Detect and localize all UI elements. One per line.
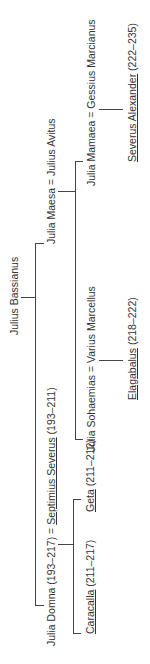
marriage-sign: = xyxy=(45,525,57,537)
connector-domna-children-bar xyxy=(73,500,74,634)
person-julia-sohaemias: Julia Sohaemias xyxy=(85,375,97,452)
connector-gen1-bar xyxy=(35,244,36,606)
couple-mamaea-marcianus: Julia Mamaea = Gessius Marcianus xyxy=(85,19,97,186)
marriage-sign: = xyxy=(45,176,57,188)
person-julius-bassianus: Julius Bassianus xyxy=(8,257,20,335)
connector-root-stem xyxy=(21,297,35,298)
connector-to-domna xyxy=(35,605,44,606)
couple-maesa-avitus: Julia Maesa = Julius Avitus xyxy=(45,118,57,244)
person-varius-marcellus: Varius Marcellus xyxy=(85,286,97,363)
reign-julia-domna: (193–217) xyxy=(45,537,57,588)
person-julia-mamaea: Julia Mamaea xyxy=(85,121,97,186)
connector-domna-stem xyxy=(58,544,73,545)
person-name: Caracalla xyxy=(84,590,96,634)
reign-septimius-severus: (193–211) xyxy=(45,387,57,437)
person-name-prefix: Severus xyxy=(126,121,138,162)
reign-dates: (222–235) xyxy=(126,23,138,74)
connector-maesa-stem xyxy=(58,191,75,192)
person-name: Alexander xyxy=(126,74,138,121)
person-gessius-marcianus: Gessius Marcianus xyxy=(85,19,97,108)
emperor-caracalla: Caracalla (211–217) xyxy=(84,540,96,634)
person-name: Julius Bassianus xyxy=(8,257,20,335)
connector-to-mamaea xyxy=(75,161,83,162)
couple-domna-severus: Julia Domna (193–217) = Septimius Severu… xyxy=(45,387,57,646)
emperor-severus-alexander: Severus Alexander (222–235) xyxy=(126,23,138,162)
person-julius-avitus: Julius Avitus xyxy=(45,118,57,176)
connector-to-maesa xyxy=(35,243,44,244)
person-julia-maesa: Julia Maesa xyxy=(45,188,57,244)
marriage-sign: = xyxy=(85,363,97,375)
connector-to-caracalla xyxy=(73,633,81,634)
emperor-elagabalus: Elagabalus (218–222) xyxy=(126,297,138,400)
family-tree-diagram: Julius Bassianus Julia Domna (193–217) =… xyxy=(0,0,150,664)
person-name: Geta xyxy=(84,489,96,512)
reign-dates: (218–222) xyxy=(126,297,138,348)
reign-dates: (211–217) xyxy=(84,540,96,590)
connector-soaemias-stem xyxy=(99,360,123,361)
marriage-sign: = xyxy=(85,109,97,121)
couple-soaemias-marcellus: Julia Sohaemias = Varius Marcellus xyxy=(85,286,97,452)
person-julia-domna: Julia Domna xyxy=(45,588,57,646)
person-name: Elagabalus xyxy=(126,348,138,400)
connector-maesa-children-bar xyxy=(75,162,76,440)
connector-to-geta xyxy=(73,499,81,500)
connector-mamaea-stem xyxy=(99,109,123,110)
connector-to-soaemias xyxy=(75,439,83,440)
emperor-septimius-severus: Septimius Severus xyxy=(45,437,57,525)
